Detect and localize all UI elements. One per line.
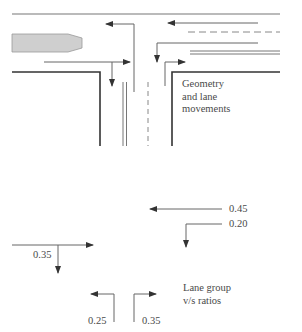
median-island: [12, 34, 82, 52]
vs-caption: Lane group v/s ratios: [183, 282, 231, 307]
ratio-northbound-through-right: 0.35: [142, 315, 160, 327]
ratio-westbound-through: 0.45: [229, 203, 247, 215]
geometry-caption: Geometry and lane movements: [182, 78, 230, 116]
southwest-curb: [12, 72, 100, 146]
ratio-westbound-left: 0.20: [229, 218, 247, 230]
vs-westbound-left-arrow: [186, 224, 222, 247]
westbound-left-arrow: [157, 43, 258, 62]
ratio-eastbound-through-right: 0.35: [33, 249, 51, 261]
geometry-panel: [12, 14, 280, 146]
intersection-diagram: [0, 0, 302, 332]
ratio-northbound-left: 0.25: [88, 315, 106, 327]
westbound-left-turn-arrow: [106, 24, 134, 92]
